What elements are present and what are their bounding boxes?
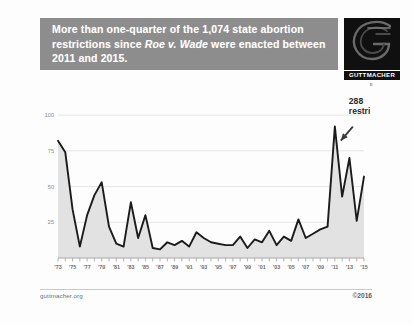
footer-website-link[interactable]: guttmacher.org xyxy=(40,292,83,299)
x-axis-tick-label: '75 xyxy=(69,264,76,270)
headline-case-citation: Roe v. Wade xyxy=(145,38,208,50)
logo-wordmark: GUTTMACHER xyxy=(344,71,400,80)
y-axis-tick-label: 25 xyxy=(48,219,54,225)
annotation-value: 288 xyxy=(349,96,364,106)
x-axis-tick-label: '91 xyxy=(186,264,193,270)
headline-text: More than one-quarter of the 1,074 state… xyxy=(52,22,338,66)
x-axis-tick-label: '85 xyxy=(142,264,149,270)
footer-divider xyxy=(40,289,372,290)
x-axis-tick-label: '07 xyxy=(302,264,309,270)
y-axis-tick-label: 50 xyxy=(48,184,54,190)
annotation-unit: restrictions xyxy=(349,106,370,116)
chart-y-axis-labels: 255075100 xyxy=(45,112,54,225)
chart-annotation: 288 restrictions xyxy=(341,96,370,141)
y-axis-tick-label: 100 xyxy=(45,112,54,118)
headline-band: More than one-quarter of the 1,074 state… xyxy=(40,18,338,70)
x-axis-tick-label: '13 xyxy=(346,264,353,270)
x-axis-tick-label: '15 xyxy=(360,264,367,270)
x-axis-tick-label: '03 xyxy=(273,264,280,270)
footer: guttmacher.org ©2016 xyxy=(40,292,372,299)
x-axis-tick-label: '05 xyxy=(288,264,295,270)
x-axis-tick-label: '81 xyxy=(113,264,120,270)
x-axis-tick-label: '87 xyxy=(156,264,163,270)
x-axis-tick-label: '99 xyxy=(244,264,251,270)
x-axis-tick-label: '89 xyxy=(171,264,178,270)
x-axis-tick-label: '01 xyxy=(258,264,265,270)
x-axis-tick-label: '83 xyxy=(127,264,134,270)
x-axis-tick-label: '73 xyxy=(54,264,61,270)
chart-x-axis-labels: '73'75'77'79'81'83'85'87'89'91'93'95'97'… xyxy=(54,264,367,270)
line-chart: 255075100 '73'75'77'79'81'83'85'87'89'91… xyxy=(40,96,370,286)
x-axis-tick-label: '11 xyxy=(331,264,338,270)
y-axis-tick-label: 75 xyxy=(48,148,54,154)
x-axis-tick-label: '93 xyxy=(200,264,207,270)
infographic-root: More than one-quarter of the 1,074 state… xyxy=(0,0,412,325)
chart-x-axis xyxy=(58,258,364,262)
x-axis-tick-label: '77 xyxy=(84,264,91,270)
footer-copyright: ©2016 xyxy=(352,292,372,299)
x-axis-tick-label: '09 xyxy=(317,264,324,270)
x-axis-tick-label: '79 xyxy=(98,264,105,270)
x-axis-tick-label: '95 xyxy=(215,264,222,270)
x-axis-tick-label: '97 xyxy=(229,264,236,270)
guttmacher-swirl-icon xyxy=(344,18,400,70)
brand-logo: GUTTMACHER I N S T I T U T E xyxy=(344,18,400,80)
